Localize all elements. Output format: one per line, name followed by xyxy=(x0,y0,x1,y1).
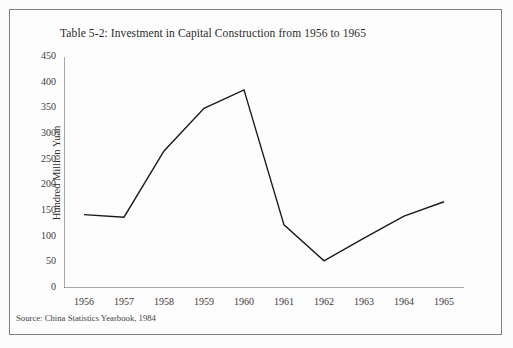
y-tick-label: 400 xyxy=(22,76,56,87)
x-tick-label: 1965 xyxy=(421,296,467,307)
chart-title: Table 5-2: Investment in Capital Constru… xyxy=(60,27,366,39)
figure-canvas: Table 5-2: Investment in Capital Constru… xyxy=(0,0,513,348)
source-note: Source: China Statistics Yearbook, 1984 xyxy=(16,313,156,323)
y-tick-label: 100 xyxy=(22,230,56,241)
y-tick-label: 50 xyxy=(22,255,56,266)
line-chart-svg xyxy=(64,57,464,288)
y-tick-label: 350 xyxy=(22,101,56,112)
data-series-line xyxy=(84,90,444,261)
axis-ticks-group xyxy=(64,57,464,288)
y-tick-label: 0 xyxy=(22,281,56,292)
y-axis-title: Hundred Million Yuan xyxy=(51,126,62,221)
axes-group xyxy=(64,57,464,288)
y-tick-label: 450 xyxy=(22,50,56,61)
plot-area: 050100150200250300350400450 195619571958… xyxy=(64,57,464,288)
